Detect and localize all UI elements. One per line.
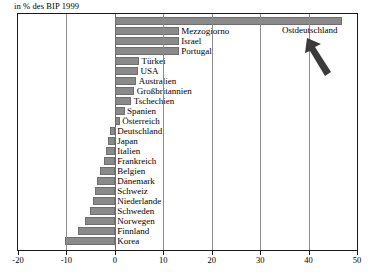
gridline [309, 14, 310, 250]
bar-category-label: Korea [117, 235, 139, 247]
axis-tick-label: -20 [12, 255, 23, 266]
bar [78, 227, 115, 235]
unit-caption: in % des BIP 1999 [14, 1, 79, 11]
bar [115, 47, 179, 55]
bar [115, 57, 139, 65]
bar [115, 87, 134, 95]
bar [104, 157, 115, 165]
axis-tick-label: 10 [159, 255, 168, 266]
bar [93, 197, 115, 205]
axis-tick-label: 30 [256, 255, 265, 266]
bar [97, 177, 114, 185]
bar-chart: in % des BIP 1999 OstdeutschlandMezzogio… [0, 0, 376, 272]
gridline [66, 14, 67, 250]
plot-area: OstdeutschlandMezzogiornoIsraelPortugalT… [17, 13, 358, 251]
zero-line [115, 14, 116, 250]
bar [115, 97, 131, 105]
bars-layer: OstdeutschlandMezzogiornoIsraelPortugalT… [18, 14, 357, 250]
bar [90, 207, 115, 215]
axis-tick-label: 20 [207, 255, 216, 266]
axis-tick-label: -10 [61, 255, 72, 266]
axis-tick-label: 50 [353, 255, 362, 266]
bar [115, 27, 179, 35]
bar [115, 67, 138, 75]
bar [95, 187, 114, 195]
gridline [163, 14, 164, 250]
bar-row: Korea [18, 236, 357, 248]
axis-tick-label: 40 [304, 255, 313, 266]
gridline [260, 14, 261, 250]
axis-tick-label: 0 [113, 255, 117, 266]
bar [115, 107, 125, 115]
x-axis-labels: -20-1001020304050 [0, 255, 376, 269]
bar [115, 37, 179, 45]
bar [108, 137, 115, 145]
gridline [212, 14, 213, 250]
annotation-label-ostdeutschland: Ostdeutschland [282, 25, 338, 36]
bar [115, 77, 136, 85]
bar [100, 167, 115, 175]
bar [106, 147, 115, 155]
bar [65, 237, 114, 245]
bar [85, 217, 115, 225]
